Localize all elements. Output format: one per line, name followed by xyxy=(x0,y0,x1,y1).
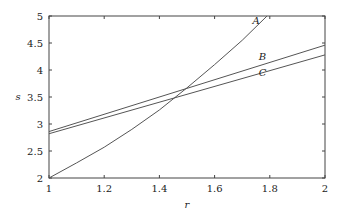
y-axis-label: s xyxy=(15,91,20,102)
y-tick-label: 3.5 xyxy=(27,92,43,103)
series-line-C xyxy=(49,55,325,134)
y-tick-label: 4 xyxy=(37,65,43,76)
x-tick-label: 1.2 xyxy=(96,183,112,194)
axes-frame xyxy=(49,16,325,178)
series-label-B: B xyxy=(258,51,266,62)
x-tick-label: 2 xyxy=(322,183,328,194)
y-tick-label: 4.5 xyxy=(27,38,43,49)
chart: 11.21.41.61.8222.533.544.55rsABC xyxy=(0,0,340,214)
series-label-C: C xyxy=(259,67,267,78)
y-tick-label: 2 xyxy=(37,173,43,184)
x-tick-label: 1.6 xyxy=(207,183,223,194)
x-axis-label: r xyxy=(185,199,191,210)
x-tick-label: 1.4 xyxy=(151,183,167,194)
series-line-B xyxy=(49,45,325,131)
y-tick-label: 5 xyxy=(37,11,43,22)
series-label-A: A xyxy=(251,15,259,26)
plot-area: 11.21.41.61.8222.533.544.55rsABC xyxy=(0,0,340,214)
x-tick-label: 1.8 xyxy=(262,183,278,194)
x-tick-label: 1 xyxy=(46,183,52,194)
y-tick-label: 2.5 xyxy=(27,146,43,157)
y-tick-label: 3 xyxy=(37,119,43,130)
